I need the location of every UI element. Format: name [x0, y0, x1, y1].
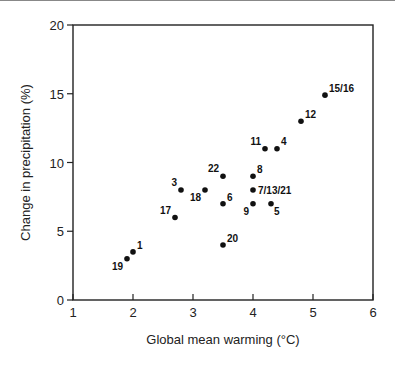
data-point [268, 201, 274, 207]
point-label: 4 [281, 136, 287, 147]
data-point [202, 187, 208, 193]
data-point [220, 201, 226, 207]
data-point [250, 173, 256, 179]
data-point [178, 187, 184, 193]
data-point [298, 118, 304, 124]
point-label: 1 [137, 240, 143, 251]
data-point [220, 173, 226, 179]
x-tick-label: 2 [129, 305, 136, 320]
y-tick-label: 5 [57, 224, 64, 239]
scatter-chart: 12345605101520Global mean warming (°C)Ch… [0, 0, 395, 368]
y-tick-label: 10 [50, 156, 64, 171]
point-label: 8 [257, 164, 263, 175]
point-label: 9 [243, 206, 249, 217]
x-tick-label: 6 [369, 305, 376, 320]
data-point [250, 201, 256, 207]
data-point [130, 249, 136, 255]
y-tick-label: 0 [57, 293, 64, 308]
x-tick-label: 5 [309, 305, 316, 320]
x-tick-label: 3 [189, 305, 196, 320]
point-label: 18 [190, 192, 202, 203]
point-label: 11 [250, 136, 261, 147]
data-point [262, 146, 268, 152]
data-point [250, 187, 256, 193]
point-label: 17 [160, 205, 172, 216]
y-axis-title: Change in precipitation (%) [18, 84, 33, 241]
x-tick-label: 1 [69, 305, 76, 320]
point-label: 20 [227, 233, 239, 244]
point-label: 7/13/21 [258, 185, 292, 196]
y-tick-label: 20 [50, 18, 64, 33]
data-point [172, 215, 178, 221]
point-label: 22 [208, 163, 220, 174]
data-point [220, 242, 226, 248]
point-label: 12 [305, 109, 317, 120]
data-point [322, 92, 328, 98]
x-tick-label: 4 [249, 305, 256, 320]
point-label: 3 [171, 177, 177, 188]
point-label: 6 [227, 192, 233, 203]
point-label: 15/16 [329, 83, 354, 94]
plot-frame [73, 25, 373, 300]
data-point [274, 146, 280, 152]
x-axis-title: Global mean warming (°C) [146, 332, 299, 347]
point-label: 19 [112, 261, 124, 272]
y-tick-label: 15 [50, 87, 64, 102]
data-point [124, 256, 130, 262]
point-label: 5 [274, 206, 280, 217]
